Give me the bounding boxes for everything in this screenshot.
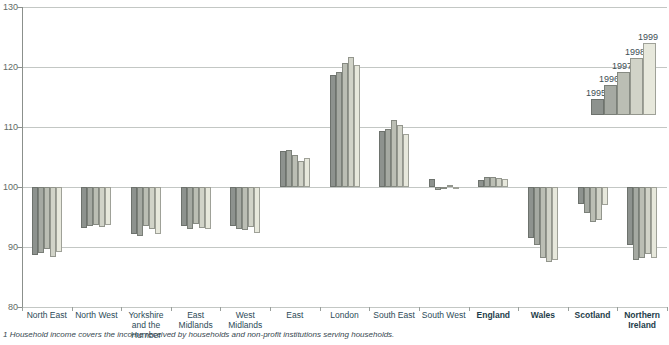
- bar-northern-ireland-1999: [651, 187, 657, 258]
- y-tick-90: [17, 247, 22, 248]
- y-axis-line: [22, 7, 23, 308]
- x-label-text: London: [330, 310, 358, 320]
- legend-label-1997: 1997: [587, 61, 632, 71]
- chart-container: 1301201101009080 North EastNorth WestYor…: [0, 0, 669, 345]
- legend-bar-1996: [604, 85, 617, 115]
- bar-wales-1999: [552, 187, 558, 260]
- bar-north-east-1999: [56, 187, 62, 252]
- y-tick-label-80: 80: [0, 302, 18, 312]
- bar-england-1999: [502, 179, 508, 187]
- x-label-text: South East: [373, 310, 415, 320]
- legend-label-1998: 1998: [600, 47, 645, 57]
- bar-south-west-1997: [441, 187, 447, 189]
- gridline-80: [22, 307, 667, 308]
- y-tick-label-120: 120: [0, 62, 18, 72]
- legend: 19951996199719981999: [591, 43, 656, 115]
- legend-bar-1995: [591, 99, 604, 115]
- legend-label-1999: 1999: [613, 32, 658, 42]
- x-label-text: East: [286, 310, 303, 320]
- legend-bar-1998: [630, 58, 643, 115]
- bar-south-west-1999: [453, 187, 459, 189]
- gridline-90: [22, 247, 667, 248]
- y-tick-label-110: 110: [0, 122, 18, 132]
- y-tick-label-130: 130: [0, 2, 18, 12]
- x-tick-13: [667, 307, 668, 311]
- legend-label-1996: 1996: [574, 74, 619, 84]
- footnote: 1 Household income covers the income rec…: [3, 330, 623, 339]
- x-label-text: East Midlands: [171, 310, 221, 330]
- legend-label-1995: 1995: [561, 88, 606, 98]
- legend-bar-1997: [617, 72, 630, 115]
- x-label-text: West Midlands: [220, 310, 270, 330]
- bar-south-west-1995: [429, 179, 435, 187]
- x-label-northern-ireland: Northern Ireland: [617, 310, 667, 340]
- y-tick-130: [17, 7, 22, 8]
- bar-scotland-1999: [602, 187, 608, 205]
- x-label-text: Northern Ireland: [617, 310, 667, 330]
- bar-west-midlands-1999: [254, 187, 260, 233]
- gridline-100: [22, 187, 667, 188]
- bar-south-east-1999: [403, 134, 409, 187]
- bar-yorkshire-and-the-humber-1999: [155, 187, 161, 234]
- y-tick-label-100: 100: [0, 182, 18, 192]
- legend-bar-1999: [643, 43, 656, 115]
- y-tick-110: [17, 127, 22, 128]
- x-label-text: South West: [422, 310, 466, 320]
- bar-north-west-1999: [105, 187, 111, 225]
- y-tick-120: [17, 67, 22, 68]
- bar-london-1999: [354, 65, 360, 187]
- bar-east-1999: [304, 158, 310, 187]
- plot-area: [22, 7, 667, 307]
- x-label-text: Wales: [531, 310, 555, 320]
- x-label-text: North West: [75, 310, 117, 320]
- gridline-130: [22, 7, 667, 8]
- y-tick-100: [17, 187, 22, 188]
- y-tick-label-90: 90: [0, 242, 18, 252]
- x-label-text: England: [477, 310, 511, 320]
- bar-east-midlands-1999: [205, 187, 211, 229]
- x-label-text: Scotland: [575, 310, 611, 320]
- x-label-text: North East: [27, 310, 67, 320]
